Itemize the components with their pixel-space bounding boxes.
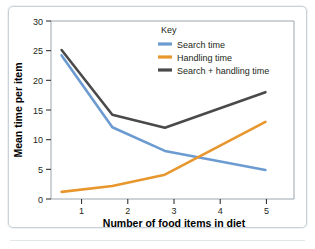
plot-axes: [51, 21, 294, 199]
plot-border: [51, 21, 294, 199]
y-axis-ticks: [46, 21, 51, 199]
y-tick-label-10: 10: [33, 135, 43, 145]
y-axis-title: Mean time per item: [12, 62, 24, 157]
y-tick-label-0: 0: [38, 195, 43, 205]
legend-label-search-time: Search time: [177, 40, 225, 50]
series-line-handling-time: [62, 122, 266, 192]
x-tick-label-5: 5: [264, 206, 269, 216]
x-tick-label-1: 1: [79, 206, 84, 216]
x-axis-title: Number of food items in diet: [103, 217, 246, 229]
chart-legend: Key Search time Handling time Search + h…: [158, 25, 269, 76]
y-tick-label-20: 20: [33, 76, 43, 86]
y-axis-tick-labels: 0 5 10 15 20 25 30: [33, 17, 43, 205]
legend-label-handling-time: Handling time: [177, 53, 232, 63]
x-tick-label-4: 4: [218, 206, 223, 216]
y-tick-label-5: 5: [38, 165, 43, 175]
x-axis-tick-labels: 1 2 3 4 5: [79, 206, 269, 216]
chart-figure: 0 5 10 15 20 25 30 1 2 3 4 5 Number of f…: [0, 0, 315, 249]
legend-title: Key: [161, 25, 177, 35]
x-tick-label-2: 2: [125, 206, 130, 216]
x-axis-ticks: [82, 199, 267, 204]
line-chart-svg: 0 5 10 15 20 25 30 1 2 3 4 5 Number of f…: [0, 0, 315, 249]
series-line-search-handling-time: [62, 50, 266, 128]
legend-label-search-plus-handling-time: Search + handling time: [177, 66, 269, 76]
y-tick-label-25: 25: [33, 46, 43, 56]
y-tick-label-15: 15: [33, 106, 43, 116]
y-tick-label-30: 30: [33, 17, 43, 27]
x-tick-label-3: 3: [171, 206, 176, 216]
